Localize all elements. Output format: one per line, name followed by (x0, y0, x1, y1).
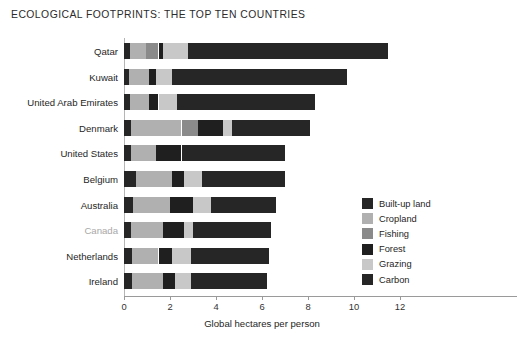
bar-segment (170, 197, 193, 213)
legend-swatch (362, 244, 373, 255)
bar-segment (193, 222, 271, 238)
bar-row (124, 43, 400, 59)
bar-segment (124, 222, 131, 238)
bar-segment (131, 145, 156, 161)
bar-segment (172, 171, 184, 187)
x-axis-tick-label: 8 (305, 301, 310, 312)
bar-segment (172, 248, 190, 264)
bar-segment (159, 94, 177, 110)
bar-segment (124, 171, 136, 187)
x-axis-tick-label: 12 (395, 301, 405, 312)
bar-segment (163, 222, 184, 238)
bar-segment (129, 69, 150, 85)
bar-segment (156, 69, 172, 85)
bar-segment (124, 197, 133, 213)
y-axis-label: Netherlands (0, 251, 118, 262)
x-axis-tick (170, 296, 171, 300)
bar-segment (175, 273, 191, 289)
x-axis-tick-label: 0 (121, 301, 126, 312)
legend-label: Forest (379, 244, 405, 254)
x-axis-tick-label: 6 (259, 301, 264, 312)
bar-segment (211, 197, 275, 213)
bar-segment (182, 145, 286, 161)
bar-segment (146, 43, 159, 59)
bar-segment (202, 171, 285, 187)
bar-row (124, 94, 400, 110)
bar-segment (124, 145, 131, 161)
bar-segment (159, 248, 173, 264)
legend-label: Built-up land (379, 199, 431, 209)
bar-segment (184, 171, 202, 187)
bar-segment (124, 273, 132, 289)
legend-swatch (362, 228, 373, 239)
y-axis-label: Australia (0, 200, 118, 211)
legend-swatch (362, 259, 373, 270)
x-axis-tick (124, 296, 125, 300)
y-axis-label: United Arab Emirates (0, 97, 118, 108)
bar-segment (188, 43, 388, 59)
bar-row (124, 197, 400, 213)
bar-row (124, 69, 400, 85)
bar-row (124, 273, 400, 289)
legend-item[interactable]: Fishing (362, 226, 431, 241)
bar-row (124, 222, 400, 238)
x-axis-tick-label: 10 (349, 301, 359, 312)
x-axis-tick (216, 296, 217, 300)
bar-segment (149, 94, 158, 110)
bar-segment (133, 197, 170, 213)
y-axis-category-labels: QatarKuwaitUnited Arab EmiratesDenmarkUn… (0, 38, 118, 296)
chart-legend: Built-up landCroplandFishingForestGrazin… (362, 196, 431, 287)
legend-label: Carbon (379, 275, 410, 285)
y-axis-label: Kuwait (0, 72, 118, 83)
x-axis-tick (262, 296, 263, 300)
x-axis-tick (308, 296, 309, 300)
bar-segment (149, 69, 156, 85)
legend-item[interactable]: Grazing (362, 257, 431, 272)
legend-label: Fishing (379, 229, 409, 239)
bar-segment (124, 248, 132, 264)
y-axis-label: Ireland (0, 276, 118, 287)
y-axis-label: Canada (0, 225, 118, 236)
bar-segment (193, 197, 211, 213)
bar-segment (198, 120, 223, 136)
bar-segment (172, 69, 347, 85)
bar-segment (132, 248, 158, 264)
legend-item[interactable]: Forest (362, 242, 431, 257)
bar-row (124, 171, 400, 187)
plot-area (124, 38, 400, 296)
bar-segment (223, 120, 232, 136)
x-axis-tick (354, 296, 355, 300)
bar-segment (177, 94, 315, 110)
bar-segment (130, 43, 146, 59)
x-axis-tick-label: 2 (167, 301, 172, 312)
bar-segment (191, 273, 267, 289)
legend-item[interactable]: Carbon (362, 272, 431, 287)
legend-swatch (362, 213, 373, 224)
bar-row (124, 145, 400, 161)
bar-segment (163, 43, 188, 59)
x-axis-tick (400, 296, 401, 300)
y-axis-label: Denmark (0, 123, 118, 134)
x-axis-title: Global hectares per person (124, 318, 400, 329)
legend-swatch (362, 274, 373, 285)
x-axis-tick-label: 4 (213, 301, 218, 312)
legend-label: Grazing (379, 259, 412, 269)
legend-item[interactable]: Built-up land (362, 196, 431, 211)
ecological-footprints-chart: ECOLOGICAL FOOTPRINTS: THE TOP TEN COUNT… (0, 0, 517, 341)
bar-segment (132, 273, 163, 289)
bar-segment (124, 120, 131, 136)
y-axis-label: Belgium (0, 174, 118, 185)
legend-swatch (362, 198, 373, 209)
bar-segment (163, 273, 175, 289)
y-axis-label: United States (0, 148, 118, 159)
bar-segment (131, 120, 182, 136)
chart-title: ECOLOGICAL FOOTPRINTS: THE TOP TEN COUNT… (11, 9, 305, 20)
bar-segment (182, 120, 198, 136)
legend-label: Cropland (379, 214, 417, 224)
legend-item[interactable]: Cropland (362, 211, 431, 226)
bar-row (124, 120, 400, 136)
bar-segment (136, 171, 173, 187)
bar-segment (232, 120, 310, 136)
x-axis-spine (124, 296, 517, 297)
bar-segment (131, 222, 163, 238)
